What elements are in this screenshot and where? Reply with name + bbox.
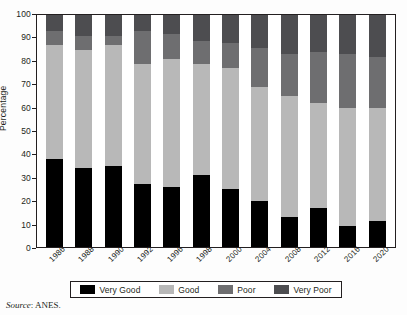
legend-item[interactable]: Very Poor — [274, 285, 331, 295]
bar-segment-very-good[interactable] — [105, 166, 122, 247]
bar-segment-very-poor[interactable] — [369, 15, 386, 57]
legend-item[interactable]: Poor — [218, 285, 255, 295]
bar-segment-very-poor[interactable] — [46, 15, 63, 31]
x-tick-wrap: 2020 — [370, 249, 387, 283]
legend-label: Good — [178, 285, 199, 295]
legend-label: Very Good — [99, 285, 140, 295]
bar-segment-poor[interactable] — [251, 48, 268, 87]
bar-segment-very-good[interactable] — [281, 217, 298, 247]
legend-item[interactable]: Good — [159, 285, 199, 295]
bar-segment-very-poor[interactable] — [193, 15, 210, 41]
bar-segment-poor[interactable] — [222, 43, 239, 69]
plot-area — [36, 14, 396, 248]
bar-segment-very-good[interactable] — [339, 226, 356, 247]
stacked-bar[interactable] — [105, 15, 122, 247]
bar-segment-good[interactable] — [163, 59, 180, 187]
stacked-bar[interactable] — [251, 15, 268, 247]
bar-segment-poor[interactable] — [75, 36, 92, 50]
source-value: : ANES. — [31, 300, 61, 310]
y-tick-label: 0 — [26, 243, 31, 253]
bar-segment-good[interactable] — [105, 45, 122, 166]
legend-label: Poor — [237, 285, 255, 295]
x-tick-wrap: 1990 — [104, 249, 121, 283]
x-tick-wrap: 2000 — [222, 249, 239, 283]
x-tick-wrap: 1998 — [193, 249, 210, 283]
bar-segment-very-good[interactable] — [163, 187, 180, 247]
bar-segment-good[interactable] — [251, 87, 268, 201]
bar-segment-good[interactable] — [369, 108, 386, 222]
x-tick-wrap: 2012 — [311, 249, 328, 283]
bar-segment-good[interactable] — [310, 103, 327, 207]
x-tick-wrap: 1986 — [45, 249, 62, 283]
bar-segment-poor[interactable] — [193, 41, 210, 64]
bar-segment-good[interactable] — [222, 68, 239, 189]
y-tick-label: 80 — [21, 56, 31, 66]
stacked-bar[interactable] — [369, 15, 386, 247]
x-axis-tick-labels: 1986198819901992199619982000200420082012… — [36, 249, 396, 283]
source-note: Source: ANES. — [6, 300, 61, 310]
bar-segment-very-good[interactable] — [46, 159, 63, 247]
bar-segment-very-good[interactable] — [251, 201, 268, 247]
bar-segment-very-good[interactable] — [310, 208, 327, 247]
bar-segment-very-poor[interactable] — [339, 15, 356, 54]
bar-segment-poor[interactable] — [281, 54, 298, 96]
y-axis-tick-labels: 0102030405060708090100 — [0, 14, 36, 248]
legend-label: Very Poor — [293, 285, 331, 295]
bar-segment-very-good[interactable] — [369, 221, 386, 247]
bar-segment-poor[interactable] — [134, 31, 151, 63]
stacked-bar[interactable] — [193, 15, 210, 247]
x-tick-wrap: 2008 — [281, 249, 298, 283]
x-tick-wrap: 2016 — [340, 249, 357, 283]
bar-segment-poor[interactable] — [369, 57, 386, 108]
bar-segment-poor[interactable] — [105, 36, 122, 45]
bar-segment-poor[interactable] — [310, 52, 327, 103]
stacked-bar[interactable] — [222, 15, 239, 247]
bar-segment-very-good[interactable] — [193, 175, 210, 247]
legend-swatch-icon — [159, 285, 174, 294]
source-label: Source — [6, 300, 31, 310]
bar-segment-good[interactable] — [46, 45, 63, 159]
stacked-bar[interactable] — [46, 15, 63, 247]
bar-segment-poor[interactable] — [339, 54, 356, 107]
chart-figure: Percentage 0102030405060708090100 198619… — [0, 0, 407, 315]
stacked-bar[interactable] — [75, 15, 92, 247]
stacked-bar[interactable] — [163, 15, 180, 247]
legend-item[interactable]: Very Good — [80, 285, 140, 295]
bar-segment-very-good[interactable] — [222, 189, 239, 247]
y-tick-label: 100 — [16, 9, 31, 19]
bar-segment-very-poor[interactable] — [222, 15, 239, 43]
bar-segment-very-poor[interactable] — [310, 15, 327, 52]
bar-segment-good[interactable] — [134, 64, 151, 185]
legend-swatch-icon — [80, 285, 95, 294]
bar-segment-poor[interactable] — [46, 31, 63, 45]
stacked-bar[interactable] — [134, 15, 151, 247]
y-tick-label: 70 — [21, 79, 31, 89]
stacked-bar[interactable] — [310, 15, 327, 247]
stacked-bar[interactable] — [339, 15, 356, 247]
bar-segment-very-good[interactable] — [134, 184, 151, 247]
bar-segment-good[interactable] — [75, 50, 92, 168]
x-tick-wrap: 1988 — [75, 249, 92, 283]
bar-segment-good[interactable] — [193, 64, 210, 175]
bar-segment-very-poor[interactable] — [105, 15, 122, 36]
bar-segment-good[interactable] — [281, 96, 298, 217]
bar-segment-very-poor[interactable] — [281, 15, 298, 54]
stacked-bar[interactable] — [281, 15, 298, 247]
bar-segment-poor[interactable] — [163, 34, 180, 60]
y-tick-label: 20 — [21, 196, 31, 206]
y-tick-label: 30 — [21, 173, 31, 183]
x-tick-wrap: 1992 — [134, 249, 151, 283]
bar-segment-very-poor[interactable] — [251, 15, 268, 47]
bar-segment-good[interactable] — [339, 108, 356, 226]
bar-segment-very-poor[interactable] — [134, 15, 151, 31]
legend-swatch-icon — [218, 285, 233, 294]
y-tick-label: 60 — [21, 103, 31, 113]
y-tick-label: 40 — [21, 149, 31, 159]
bar-segment-very-poor[interactable] — [75, 15, 92, 36]
x-tick-wrap: 1996 — [163, 249, 180, 283]
bar-segment-very-good[interactable] — [75, 168, 92, 247]
stacked-bars-group — [37, 15, 395, 247]
bar-segment-very-poor[interactable] — [163, 15, 180, 34]
x-tick-wrap: 2004 — [252, 249, 269, 283]
y-tick-label: 10 — [21, 220, 31, 230]
